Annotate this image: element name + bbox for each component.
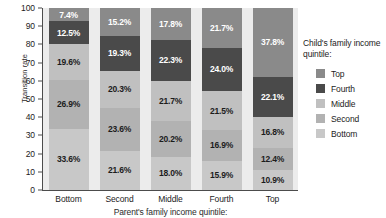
- bar-segment-label: 19.6%: [57, 58, 80, 67]
- bar-column[interactable]: 17.8%22.3%21.7%20.2%18.0%: [151, 8, 191, 190]
- bar-segment-label: 22.1%: [261, 93, 284, 102]
- bar-segment[interactable]: 24.0%: [202, 48, 242, 92]
- x-axis-line: [42, 190, 298, 191]
- bar-segment[interactable]: 16.9%: [202, 130, 242, 161]
- legend-swatch-icon: [316, 84, 325, 93]
- bar-segment-label: 7.4%: [59, 11, 78, 20]
- bar-segment[interactable]: 23.6%: [100, 108, 140, 151]
- bar-segment[interactable]: 18.0%: [151, 157, 191, 190]
- legend-title: Child's family income quintile:: [303, 38, 386, 60]
- bar-segment-label: 24.0%: [210, 65, 233, 74]
- bar-segment-label: 23.6%: [108, 125, 131, 134]
- legend-item-label: Middle: [331, 99, 355, 109]
- legend-item-label: Second: [331, 114, 359, 124]
- legend-item[interactable]: Top: [316, 66, 386, 81]
- bar-segment[interactable]: 21.7%: [151, 81, 191, 120]
- bar-column[interactable]: 21.7%24.0%21.5%16.9%15.9%: [202, 8, 242, 190]
- bar-segment[interactable]: 22.1%: [253, 77, 293, 117]
- bar-segment-label: 19.3%: [108, 49, 131, 58]
- plot-area: 7.4%12.5%19.6%26.9%33.6%15.2%19.3%20.3%2…: [43, 8, 298, 190]
- y-axis-tick-label: 90: [26, 21, 35, 31]
- bar-segment-label: 12.4%: [261, 155, 284, 164]
- bar-segment[interactable]: 22.3%: [151, 40, 191, 81]
- bar-segment-label: 26.9%: [57, 100, 80, 109]
- stacked-bar-chart: Transition rate 1009080706050403020100 7…: [0, 0, 386, 218]
- bar-column[interactable]: 15.2%19.3%20.3%23.6%21.6%: [100, 8, 140, 190]
- bar-segment[interactable]: 17.8%: [151, 8, 191, 40]
- bar-segment-label: 21.7%: [159, 97, 182, 106]
- bar-column[interactable]: 37.8%22.1%16.8%12.4%10.9%: [253, 8, 293, 190]
- x-axis-tick-label: Fourth: [202, 192, 242, 206]
- bar-segment[interactable]: 15.9%: [202, 161, 242, 190]
- legend-item[interactable]: Middle: [316, 96, 386, 111]
- bar-segment-label: 18.0%: [159, 169, 182, 178]
- x-axis-tick-labels: BottomSecondMiddleFourthTop: [43, 192, 298, 206]
- bar-segment[interactable]: 16.8%: [253, 117, 293, 148]
- x-axis-title: Parent's family income quintile:: [43, 207, 298, 217]
- legend-swatch-icon: [316, 69, 325, 78]
- bar-segment-label: 16.9%: [210, 141, 233, 150]
- bar-segment-label: 33.6%: [57, 155, 80, 164]
- y-axis-tick-label: 10: [26, 167, 35, 177]
- x-axis-tick-label: Bottom: [49, 192, 89, 206]
- y-axis-tick-label: 20: [26, 149, 35, 159]
- legend-item[interactable]: Fourth: [316, 81, 386, 96]
- legend-item-label: Fourth: [331, 84, 355, 94]
- bar-segment-label: 21.6%: [108, 166, 131, 175]
- bar-segment-label: 15.9%: [210, 171, 233, 180]
- legend-item-label: Bottom: [331, 129, 357, 139]
- bar-segment-label: 17.8%: [159, 20, 182, 29]
- y-axis-tick-label: 30: [26, 130, 35, 140]
- y-axis-tick-label: 0: [30, 185, 35, 195]
- legend-swatch-icon: [316, 129, 325, 138]
- bar-segment[interactable]: 21.5%: [202, 91, 242, 130]
- bar-segment[interactable]: 37.8%: [253, 8, 293, 77]
- bar-segment-label: 16.8%: [261, 128, 284, 137]
- legend-item[interactable]: Bottom: [316, 126, 386, 141]
- bar-segment-label: 12.5%: [57, 29, 80, 38]
- bar-segment[interactable]: 33.6%: [49, 129, 89, 190]
- y-axis-tick-label: 60: [26, 76, 35, 86]
- bar-segment-label: 21.5%: [210, 107, 233, 116]
- y-axis-tick-label: 100: [21, 3, 35, 13]
- x-axis-tick-label: Top: [253, 192, 293, 206]
- y-axis-tick-label: 50: [26, 94, 35, 104]
- bar-segment[interactable]: 20.2%: [151, 121, 191, 158]
- bar-segment[interactable]: 7.4%: [49, 8, 89, 21]
- legend-swatch-icon: [316, 99, 325, 108]
- bar-segment[interactable]: 15.2%: [100, 8, 140, 36]
- bar-segment[interactable]: 12.5%: [49, 21, 89, 44]
- bar-segment[interactable]: 10.9%: [253, 170, 293, 190]
- bar-segment-label: 20.3%: [108, 85, 131, 94]
- bar-segment-label: 15.2%: [108, 18, 131, 27]
- bar-segment[interactable]: 19.6%: [49, 44, 89, 80]
- y-axis-tick-label: 70: [26, 58, 35, 68]
- legend-items: TopFourthMiddleSecondBottom: [303, 66, 386, 141]
- x-axis-tick-label: Second: [100, 192, 140, 206]
- bar-segment-label: 20.2%: [159, 135, 182, 144]
- bar-segment-label: 21.7%: [210, 24, 233, 33]
- bar-segment[interactable]: 26.9%: [49, 80, 89, 129]
- x-axis-tick-label: Middle: [151, 192, 191, 206]
- legend-item-label: Top: [331, 69, 344, 79]
- bar-segment[interactable]: 21.6%: [100, 151, 140, 190]
- legend: Child's family income quintile: TopFourt…: [303, 38, 386, 141]
- bar-segment-label: 10.9%: [261, 176, 284, 185]
- y-axis-tick-label: 80: [26, 39, 35, 49]
- bar-segment[interactable]: 19.3%: [100, 36, 140, 71]
- legend-swatch-icon: [316, 114, 325, 123]
- bar-segment[interactable]: 21.7%: [202, 8, 242, 47]
- y-axis-tick-label: 40: [26, 112, 35, 122]
- bar-column[interactable]: 7.4%12.5%19.6%26.9%33.6%: [49, 8, 89, 190]
- y-axis-ticks: 1009080706050403020100: [8, 8, 42, 190]
- legend-item[interactable]: Second: [316, 111, 386, 126]
- bar-segment[interactable]: 12.4%: [253, 148, 293, 171]
- bar-segment-label: 22.3%: [159, 56, 182, 65]
- bar-segment-label: 37.8%: [261, 38, 284, 47]
- bar-segment[interactable]: 20.3%: [100, 71, 140, 108]
